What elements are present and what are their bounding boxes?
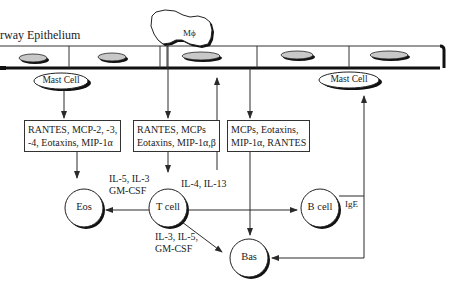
edge-label-line: IL-5, IL-3 [109,173,150,185]
mast-cell-chemokines-box: RANTES, MCP-2, -3, -4, Eotaxins, MIP-1α [24,120,121,152]
epithelial-nuclei [19,51,410,64]
box-line: RANTES, MCP-2, -3, [28,123,117,136]
box-line: MIP-1α, RANTES [231,136,306,149]
mast-cell-right-label: Mast Cell [321,74,377,84]
mast-cell-left-label: Mast Cell [36,75,86,85]
tcell-to-eos-label: IL-5, IL-3 GM-CSF [109,173,150,197]
allergic-inflammation-diagram: rway Epithelium Mϕ Mast Cell Mast Cell R… [0,0,462,295]
box-line: Eotaxins, MIP-1α,β [137,136,216,149]
edge-label-line: GM-CSF [155,243,198,255]
tcell-to-bas-label: IL-3, IL-5, GM-CSF [155,231,198,255]
ige-label: IgE [345,198,358,210]
basophil-chemokines-box: MCPs, Eotaxins, MIP-1α, RANTES [227,120,310,152]
epithelial-chemokines-box: RANTES, MCPs Eotaxins, MIP-1α,β [133,120,220,152]
bas-label: Bas [230,251,268,262]
box-line: -4, Eotaxins, MIP-1α [28,136,117,149]
box-line: MCPs, Eotaxins, [231,123,306,136]
edge-label-line: IL-3, IL-5, [155,231,198,243]
tcell-to-bcell-label: IL-4, IL-13 [181,178,227,190]
b-cell-label: B cell [301,201,339,212]
edge-label-line: GM-CSF [109,185,150,197]
t-cell-label: T cell [149,201,187,212]
box-line: RANTES, MCPs [137,123,216,136]
epithelium-label: rway Epithelium [0,28,80,42]
eos-label: Eos [65,201,103,212]
macrophage-label: Mϕ [183,27,196,39]
